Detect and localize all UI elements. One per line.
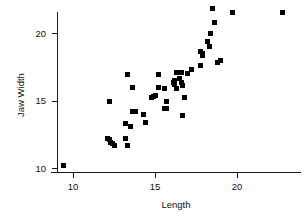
x-tick-label: 20: [232, 181, 243, 192]
data-point: [133, 109, 138, 114]
y-tick-group: 101520: [35, 28, 57, 174]
data-point-group: [61, 6, 286, 168]
data-point: [123, 121, 128, 126]
x-tick-group: 101520: [68, 173, 243, 192]
data-point: [125, 72, 130, 77]
y-tick-label: 20: [35, 28, 46, 39]
x-tick-label: 15: [150, 181, 161, 192]
data-point: [123, 136, 128, 141]
data-point: [180, 113, 185, 118]
y-axis: 101520: [35, 12, 57, 174]
data-point: [200, 51, 205, 56]
data-point: [230, 10, 235, 15]
data-point: [189, 67, 194, 72]
data-point: [162, 86, 167, 91]
data-point: [174, 86, 179, 91]
y-tick-label: 15: [35, 95, 46, 106]
data-point: [172, 78, 177, 83]
data-point: [156, 72, 161, 77]
data-point: [218, 58, 223, 63]
plot-canvas: 101520 101520 Length Jaw Width: [0, 0, 306, 222]
y-tick-label: 10: [35, 163, 46, 174]
data-point: [208, 31, 213, 36]
data-point: [143, 120, 148, 125]
data-point: [128, 124, 133, 129]
data-point: [61, 163, 66, 168]
x-tick-label: 10: [68, 181, 79, 192]
data-point: [164, 106, 169, 111]
data-point: [125, 143, 130, 148]
data-point: [212, 20, 217, 25]
data-point: [280, 10, 285, 15]
data-point: [130, 85, 135, 90]
x-axis-title: Length: [161, 199, 190, 210]
data-point: [107, 99, 112, 104]
data-point: [164, 99, 169, 104]
data-point: [198, 63, 203, 68]
data-point: [180, 83, 185, 88]
data-point: [141, 112, 146, 117]
data-point: [205, 39, 210, 44]
data-point: [156, 85, 161, 90]
data-point: [153, 93, 158, 98]
data-point: [112, 143, 117, 148]
data-point: [179, 70, 184, 75]
data-point: [174, 70, 179, 75]
x-axis: 101520: [51, 173, 301, 193]
data-point: [210, 6, 215, 11]
y-axis-title: Jaw Width: [15, 73, 26, 117]
data-point: [182, 95, 187, 100]
scatter-plot-figure: 101520 101520 Length Jaw Width: [0, 0, 306, 222]
data-point: [207, 44, 212, 49]
